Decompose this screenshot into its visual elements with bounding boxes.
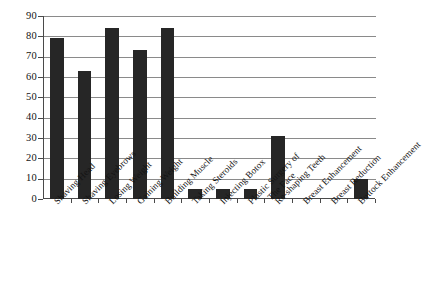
y-axis-tick-label: 10 [0, 173, 37, 184]
x-axis-labels: Shaving HeadShaving EyebrowsLosing Weigh… [0, 199, 389, 293]
y-axis-tick-label: 60 [0, 72, 37, 83]
y-axis-tick-label: 70 [0, 51, 37, 62]
y-axis-tick-label: 20 [0, 153, 37, 164]
bar [50, 38, 64, 199]
y-axis-tick-label: 40 [0, 112, 37, 123]
y-axis-tick-label: 50 [0, 92, 37, 103]
y-axis-tick-label: 80 [0, 31, 37, 42]
y-axis-tick-label: 30 [0, 133, 37, 144]
y-axis-tick-label: 90 [0, 11, 37, 22]
